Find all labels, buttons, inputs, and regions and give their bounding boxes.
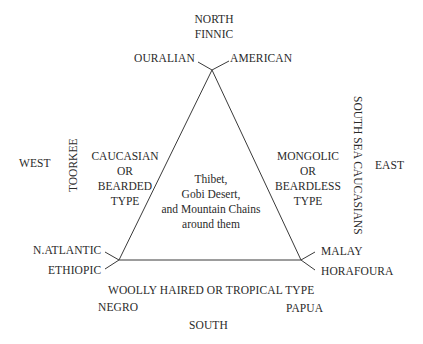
bottom-right-lower-extension: [301, 260, 315, 270]
horafoura-label: HORAFOURA: [321, 266, 393, 278]
south-sea-caucasians-label: SOUTH SEA CAUCASIANS: [352, 96, 364, 235]
bottom-left-lower-extension: [105, 260, 119, 269]
center-label: Thibet, Gobi Desert, and Mountain Chains…: [158, 172, 264, 232]
woolly-haired-label: WOOLLY HAIRED OR TROPICAL TYPE: [108, 285, 314, 297]
caucasian-line-3: BEARDED: [88, 179, 162, 194]
center-line-4: around them: [158, 217, 264, 232]
mongolic-line-1: MONGOLIC: [268, 149, 348, 164]
n-atlantic-label: N.ATLANTIC: [33, 245, 101, 257]
ethiopic-label: ETHIOPIC: [48, 265, 101, 277]
malay-label: MALAY: [321, 246, 363, 258]
top-right-extension: [212, 61, 229, 70]
finnic-label: FINNIC: [186, 27, 242, 42]
center-line-3: and Mountain Chains: [158, 202, 264, 217]
caucasian-line-4: TYPE: [88, 194, 162, 209]
caucasian-line-2: OR: [88, 164, 162, 179]
negro-label: NEGRO: [98, 302, 138, 314]
mongolic-type-label: MONGOLIC OR BEARDLESS TYPE: [268, 149, 348, 209]
bottom-left-upper-extension: [105, 252, 119, 260]
mongolic-line-2: OR: [268, 164, 348, 179]
mongolic-line-3: BEARDLESS: [268, 179, 348, 194]
ouralian-label: OURALIAN: [134, 53, 195, 65]
north-label-group: NORTH FINNIC: [186, 12, 242, 42]
toorkee-label: TOORKEE: [67, 139, 79, 192]
east-label: EAST: [375, 160, 404, 172]
center-line-1: Thibet,: [158, 172, 264, 187]
center-line-2: Gobi Desert,: [158, 187, 264, 202]
papua-label: PAPUA: [286, 303, 323, 315]
mongolic-line-4: TYPE: [268, 194, 348, 209]
south-label: SOUTH: [189, 320, 228, 332]
north-label: NORTH: [186, 12, 242, 27]
west-label: WEST: [19, 158, 51, 170]
bottom-right-upper-extension: [301, 252, 315, 260]
caucasian-type-label: CAUCASIAN OR BEARDED TYPE: [88, 149, 162, 209]
american-label: AMERICAN: [230, 53, 292, 65]
caucasian-line-1: CAUCASIAN: [88, 149, 162, 164]
top-left-extension: [198, 62, 212, 70]
